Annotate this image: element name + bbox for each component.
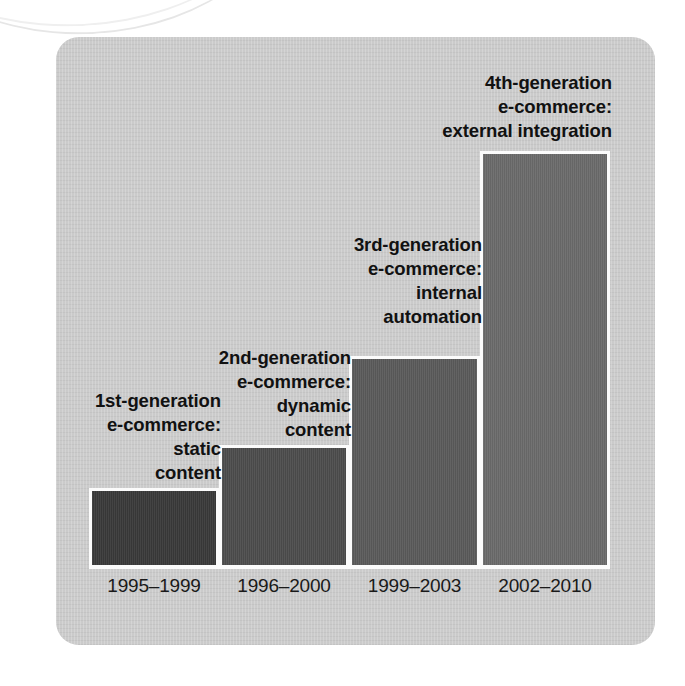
x-tick-label-1: 1995–1999	[89, 574, 219, 598]
x-tick-label-4: 2002–2010	[480, 574, 610, 598]
scan-artifact-arc-outer	[0, 0, 304, 37]
bar-fill-2	[222, 448, 346, 565]
bar-1999-2003	[349, 356, 480, 565]
bar-label-4th-generation: 4th-generation e-commerce: external inte…	[382, 71, 612, 143]
bar-chart: 1st-generation e-commerce: static conten…	[56, 37, 655, 645]
bar-label-3rd-generation: 3rd-generation e-commerce: internal auto…	[309, 233, 482, 329]
bar-fill-1	[92, 491, 216, 565]
bar-fill-3	[352, 359, 477, 565]
bar-2002-2010	[480, 151, 610, 565]
bar-fill-4	[483, 154, 607, 565]
x-tick-label-2: 1996–2000	[219, 574, 349, 598]
axis-baseline	[89, 565, 610, 569]
bar-1995-1999	[89, 488, 219, 565]
figure-card: 1st-generation e-commerce: static conten…	[56, 37, 655, 645]
bar-label-2nd-generation: 2nd-generation e-commerce: dynamic conte…	[179, 346, 351, 442]
x-tick-label-3: 1999–2003	[349, 574, 480, 598]
bar-1996-2000	[219, 445, 349, 565]
